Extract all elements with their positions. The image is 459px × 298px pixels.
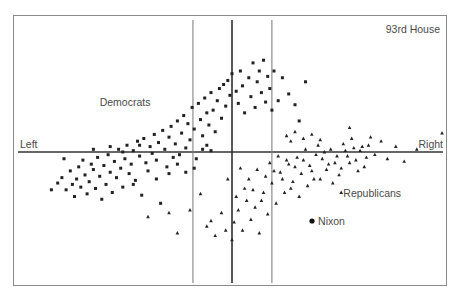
scatter-chart: 93rd House Left Right DemocratsRepublica…: [0, 0, 459, 298]
democrat-point: [92, 168, 95, 171]
democrat-point: [69, 169, 72, 172]
democrat-point: [151, 152, 154, 155]
democrat-point: [63, 157, 66, 160]
democrat-point: [88, 180, 91, 183]
democrat-point: [113, 160, 116, 163]
democrat-point: [73, 195, 76, 198]
democrat-point: [260, 91, 263, 94]
democrat-point: [144, 161, 147, 164]
democrat-point: [270, 109, 273, 112]
democrat-point: [304, 80, 307, 83]
democrat-point: [258, 70, 261, 73]
democrat-point: [153, 133, 156, 136]
democrat-point: [281, 76, 284, 79]
democrat-point: [107, 153, 110, 156]
democrat-point: [189, 138, 192, 141]
democrat-point: [186, 122, 189, 125]
democrat-point: [50, 188, 53, 191]
democrat-point: [254, 106, 257, 109]
democrat-point: [98, 175, 101, 178]
special-points: [309, 218, 314, 223]
democrat-point: [136, 140, 139, 143]
democrat-point: [170, 125, 173, 128]
democrat-point: [165, 165, 168, 168]
democrat-point: [201, 134, 204, 137]
democrat-point: [119, 167, 122, 170]
democrat-point: [117, 148, 120, 151]
democrat-point: [220, 117, 223, 120]
democrat-point: [56, 182, 59, 185]
democrat-point: [92, 148, 95, 151]
democrat-point: [203, 97, 206, 100]
democrat-point: [60, 176, 63, 179]
democrat-point: [228, 94, 231, 97]
democrat-point: [216, 99, 219, 102]
democrat-point: [239, 70, 242, 73]
democrat-point: [266, 75, 269, 78]
democrat-point: [65, 188, 68, 191]
democrat-point: [252, 61, 255, 64]
democrat-point: [134, 179, 137, 182]
democrat-point: [294, 103, 297, 106]
democrat-point: [207, 124, 210, 127]
democrat-point: [180, 132, 183, 135]
democrat-point: [205, 144, 208, 147]
annotation-republicans: Republicans: [343, 187, 401, 199]
democrat-point: [138, 144, 141, 147]
democrat-point: [123, 157, 126, 160]
democrat-point: [126, 144, 129, 147]
democrat-point: [140, 194, 143, 197]
democrat-point: [210, 149, 213, 152]
democrat-point: [174, 142, 177, 145]
democrat-point: [109, 171, 112, 174]
democrat-point: [182, 114, 185, 117]
democrat-point: [75, 178, 78, 181]
democrat-point: [231, 72, 234, 75]
democrat-point: [105, 183, 108, 186]
democrat-point: [77, 165, 80, 168]
axis-label-left: Left: [20, 138, 38, 150]
democrat-point: [102, 164, 105, 167]
democrat-point: [90, 163, 93, 166]
democrat-point: [79, 186, 82, 189]
democrat-point: [262, 59, 265, 62]
democrat-point: [168, 136, 171, 139]
democrat-point: [84, 173, 87, 176]
democrat-point: [277, 99, 280, 102]
democrat-point: [201, 148, 204, 151]
democrat-point: [86, 192, 89, 195]
democrat-point: [176, 119, 179, 122]
democrat-point: [128, 172, 131, 175]
democrat-point: [191, 106, 194, 109]
democrat-point: [226, 79, 229, 82]
democrat-point: [273, 70, 276, 73]
democrat-point: [71, 183, 74, 186]
democrat-point: [121, 186, 124, 189]
democrat-point: [224, 105, 227, 108]
democrat-point: [218, 87, 221, 90]
democrat-point: [163, 148, 166, 151]
democrat-point: [249, 95, 252, 98]
democrat-point: [132, 149, 135, 152]
democrat-point: [241, 84, 244, 87]
plot-frame: [14, 16, 447, 286]
democrat-point: [184, 146, 187, 149]
democrat-point: [235, 90, 238, 93]
democrat-point: [178, 153, 181, 156]
annotation-democrats: Democrats: [100, 96, 151, 108]
democrat-point: [247, 76, 250, 79]
democrat-point: [195, 157, 198, 160]
democrat-point: [149, 145, 152, 148]
democrat-point: [172, 156, 175, 159]
nixon-point: [309, 218, 314, 223]
democrat-point: [130, 163, 133, 166]
democrat-point: [268, 87, 271, 90]
axis-label-right: Right: [418, 138, 443, 150]
democrat-point: [243, 111, 246, 114]
chart-title: 93rd House: [386, 23, 440, 35]
democrat-point: [161, 129, 164, 132]
democrat-point: [298, 119, 301, 122]
democrat-point: [184, 171, 187, 174]
democrat-point: [100, 198, 103, 201]
democrat-point: [142, 137, 145, 140]
